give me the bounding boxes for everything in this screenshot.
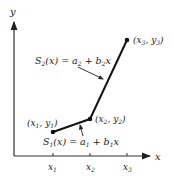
point-1 [51, 130, 56, 135]
s1-formula: S1(x) = a1 + b1x [43, 136, 120, 148]
s2-formula: S2(x) = a2 + b2x [35, 55, 112, 67]
point-2 [88, 117, 93, 122]
point-2-label: (x2, y2) [95, 114, 126, 125]
x-axis-label: x [155, 151, 161, 162]
spline-diagram: y x x1 x2 x3 (x1, y1) (x2, y2) (x3, y3) … [0, 0, 173, 179]
diagram-canvas: y x x1 x2 x3 (x1, y1) (x2, y2) (x3, y3) … [0, 0, 173, 179]
s2-pointer-arrow [78, 67, 103, 79]
tick-label-x1: x1 [48, 162, 57, 173]
segment-s1 [53, 119, 90, 132]
y-axis-label: y [9, 6, 16, 17]
point-3 [125, 38, 130, 43]
point-3-label: (x3, y3) [133, 35, 164, 46]
segment-s2 [90, 40, 127, 119]
tick-label-x2: x2 [86, 162, 95, 173]
s1-pointer-arrow [80, 125, 83, 136]
tick-label-x3: x3 [123, 162, 132, 173]
point-1-label: (x1, y1) [27, 118, 58, 129]
